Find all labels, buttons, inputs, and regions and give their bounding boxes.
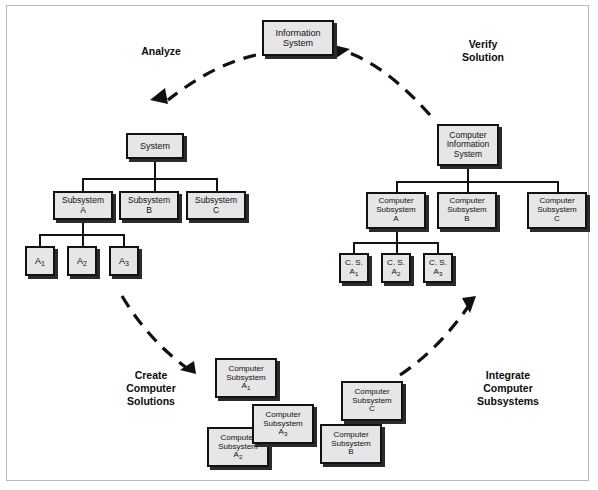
box-cs-a2-label: C. S. A2 xyxy=(387,259,405,277)
box-a2[interactable]: A2 xyxy=(67,246,97,276)
box-computer-subsystem-a-label: Computer Subsystem A xyxy=(376,197,416,224)
box-subsystem-a-label: Subsystem A xyxy=(62,196,104,215)
box-a1-label: A1 xyxy=(35,256,45,266)
box-scatter-computer-subsystem-b[interactable]: Computer Subsystem B xyxy=(320,424,382,464)
box-computer-subsystem-b[interactable]: Computer Subsystem B xyxy=(437,192,497,229)
diagram-canvas: Information System Analyze Verify Soluti… xyxy=(0,0,598,490)
box-scatter-a1-label: Computer Subsystem A1 xyxy=(226,365,266,392)
left-tree-drop-b xyxy=(154,178,156,192)
box-computer-subsystem-c-label: Computer Subsystem C xyxy=(537,197,577,224)
box-information-system-label: Information System xyxy=(275,28,320,48)
label-analyze: Analyze xyxy=(118,45,204,58)
box-computer-subsystem-b-label: Computer Subsystem B xyxy=(447,197,487,224)
box-cs-a2[interactable]: C. S. A2 xyxy=(381,253,411,283)
left-tree-a-stem xyxy=(82,220,84,235)
box-a3[interactable]: A3 xyxy=(109,246,139,276)
box-scatter-c-label: Computer Subsystem C xyxy=(352,388,392,415)
right-tree-level2-bus xyxy=(396,181,559,183)
box-subsystem-a[interactable]: Subsystem A xyxy=(53,191,113,220)
box-cs-a1[interactable]: C. S. A1 xyxy=(339,253,369,283)
box-subsystem-c[interactable]: Subsystem C xyxy=(186,191,246,220)
left-tree-drop-c xyxy=(216,178,218,192)
box-scatter-b-label: Computer Subsystem B xyxy=(331,431,371,458)
box-cs-a1-label: C. S. A1 xyxy=(345,259,363,277)
box-left-system[interactable]: System xyxy=(126,133,184,159)
box-computer-information-system-label: Computer Information System xyxy=(447,131,490,160)
right-tree-a-stem xyxy=(396,229,398,243)
label-integrate-computer-subsystems: Integrate Computer Subsystems xyxy=(448,369,568,408)
box-a2-label: A2 xyxy=(77,256,87,266)
box-scatter-computer-subsystem-c[interactable]: Computer Subsystem C xyxy=(341,381,403,421)
box-scatter-a3-label: Computer Subsystem A3 xyxy=(263,411,303,438)
box-a3-label: A3 xyxy=(119,256,129,266)
box-scatter-computer-subsystem-a3[interactable]: Computer Subsystem A3 xyxy=(252,404,314,444)
left-tree-root-stem xyxy=(154,159,156,179)
box-left-system-label: System xyxy=(140,141,170,151)
box-scatter-computer-subsystem-a1[interactable]: Computer Subsystem A1 xyxy=(215,358,277,398)
box-computer-information-system[interactable]: Computer Information System xyxy=(437,124,499,166)
box-information-system[interactable]: Information System xyxy=(262,20,334,56)
box-a1[interactable]: A1 xyxy=(25,246,55,276)
box-computer-subsystem-a[interactable]: Computer Subsystem A xyxy=(366,192,426,229)
box-computer-subsystem-c[interactable]: Computer Subsystem C xyxy=(527,192,587,229)
box-cs-a3-label: C. S. A3 xyxy=(429,259,447,277)
label-verify-solution: Verify Solution xyxy=(428,38,538,64)
box-subsystem-b[interactable]: Subsystem B xyxy=(119,191,179,220)
left-tree-drop-a xyxy=(82,178,84,192)
label-create-computer-solutions: Create Computer Solutions xyxy=(96,369,206,408)
box-subsystem-b-label: Subsystem B xyxy=(128,196,170,215)
left-tree-level2-bus xyxy=(82,178,218,180)
box-cs-a3[interactable]: C. S. A3 xyxy=(423,253,453,283)
right-tree-root-stem xyxy=(467,166,469,182)
box-subsystem-c-label: Subsystem C xyxy=(195,196,237,215)
